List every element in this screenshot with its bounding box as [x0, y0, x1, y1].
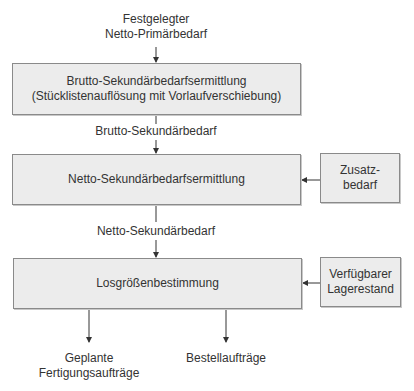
output-bestellauftraege: Bestellaufträge	[176, 351, 276, 366]
flow-netto-sekundaerbedarf: Netto-Sekundärbedarf	[86, 224, 226, 239]
output-fertigungsauftraege: Geplante Fertigungsaufträge	[29, 351, 149, 381]
output-left-line-1: Geplante	[29, 351, 149, 366]
step1-subtitle: (Stücklistenauflösung mit Vorlaufverschi…	[32, 89, 281, 104]
input-line-1: Festgelegter	[96, 12, 216, 27]
output-left-line-2: Fertigungsaufträge	[29, 366, 149, 381]
step-brutto-sekundaerbedarf: Brutto-Sekundärbedarfsermittlung (Stückl…	[12, 63, 301, 115]
side-input-zusatzbedarf: Zusatz- bedarf	[320, 153, 400, 203]
lager-line-1: Verfügbarer	[329, 267, 392, 282]
step2-title: Netto-Sekundärbedarfsermittlung	[68, 172, 245, 187]
step-losgroessenbestimmung: Losgrößenbestimmung	[13, 258, 302, 309]
side-input-lagerestand: Verfügbarer Lagerestand	[320, 257, 401, 307]
input-netto-primaerbedarf: Festgelegter Netto-Primärbedarf	[96, 12, 216, 42]
flow-brutto-sekundaerbedarf: Brutto-Sekundärbedarf	[86, 124, 226, 139]
step1-title: Brutto-Sekundärbedarfsermittlung	[66, 74, 246, 89]
lager-line-2: Lagerestand	[327, 282, 394, 297]
zusatz-line-1: Zusatz-	[340, 163, 380, 178]
input-line-2: Netto-Primärbedarf	[96, 27, 216, 42]
step-netto-sekundaerbedarf: Netto-Sekundärbedarfsermittlung	[12, 154, 301, 205]
step3-title: Losgrößenbestimmung	[96, 276, 219, 291]
zusatz-line-2: bedarf	[343, 178, 377, 193]
